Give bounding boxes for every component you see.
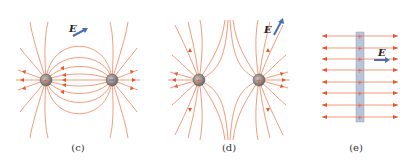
field-vector-d: E <box>263 18 284 35</box>
svg-text:E: E <box>263 24 272 35</box>
caption-d: (d) <box>222 142 236 153</box>
plus-sign-icon: + <box>196 76 203 85</box>
svg-text:E: E <box>68 23 77 34</box>
svg-text:+: + <box>357 33 363 41</box>
svg-text:+: + <box>357 114 363 122</box>
panel-c-dipole <box>16 22 140 138</box>
plus-sign-icon: + <box>43 76 50 85</box>
svg-text:+: + <box>357 67 363 75</box>
svg-text:+: + <box>357 79 363 87</box>
caption-c: (c) <box>71 142 84 153</box>
plus-sign-icon: + <box>256 76 263 85</box>
svg-text:+: + <box>357 45 363 53</box>
svg-text:E: E <box>377 47 386 58</box>
svg-text:+: + <box>357 90 363 98</box>
svg-text:+: + <box>357 56 363 64</box>
panel-d-like-charges <box>168 20 290 140</box>
caption-e: (e) <box>349 142 363 153</box>
field-vector-e: E <box>374 47 390 63</box>
field-vector-c: E <box>68 23 88 36</box>
svg-text:+: + <box>357 102 363 110</box>
